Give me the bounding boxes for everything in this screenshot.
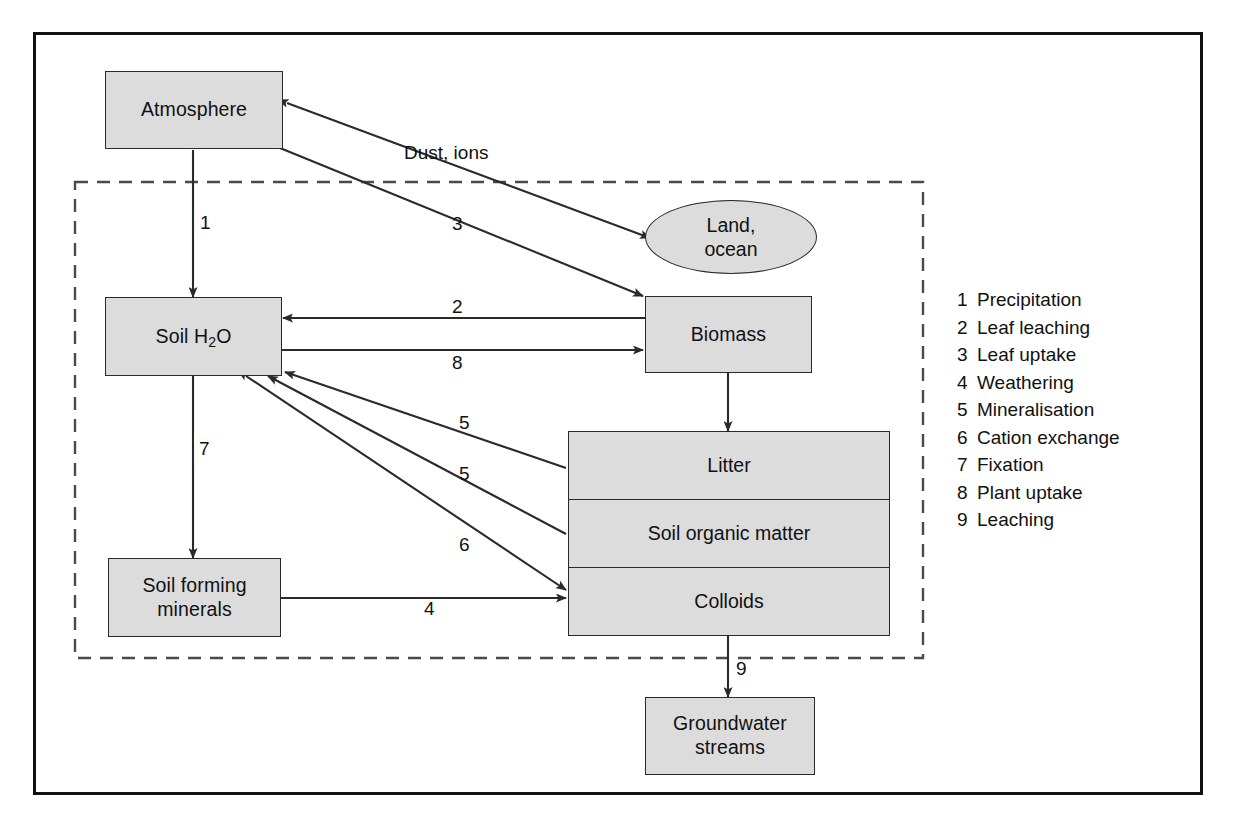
legend-label: Leaf leaching [977, 314, 1197, 342]
edge-label-9: 9 [736, 658, 747, 680]
node-soil-water[interactable]: Soil H2O [105, 297, 282, 376]
node-land-ocean[interactable]: Land, ocean [645, 200, 817, 274]
edge-label-1: 1 [200, 212, 211, 234]
legend-label: Cation exchange [977, 424, 1197, 452]
edge-label-4: 4 [424, 598, 435, 620]
node-biomass[interactable]: Biomass [645, 296, 812, 373]
legend-label: Leaching [977, 506, 1197, 534]
soil-water-subscript: 2 [208, 334, 216, 350]
node-soil-forming-minerals[interactable]: Soil forming minerals [108, 558, 281, 637]
legend-item: 2 Leaf leaching [957, 314, 1197, 342]
legend-number: 7 [957, 451, 977, 479]
legend-item: 6 Cation exchange [957, 424, 1197, 452]
legend-label: Leaf uptake [977, 341, 1197, 369]
legend-item: 5 Mineralisation [957, 396, 1197, 424]
soil-forming-line1: Soil forming [142, 574, 246, 596]
node-soil-organic-matter-label: Soil organic matter [648, 522, 811, 545]
node-biomass-label: Biomass [691, 323, 766, 347]
legend-item: 8 Plant uptake [957, 479, 1197, 507]
soil-water-prefix: Soil H [156, 325, 209, 347]
legend-label: Precipitation [977, 286, 1197, 314]
node-groundwater-streams[interactable]: Groundwater streams [645, 697, 815, 775]
legend-item: 3 Leaf uptake [957, 341, 1197, 369]
node-litter[interactable]: Litter [569, 432, 889, 500]
legend-number: 2 [957, 314, 977, 342]
node-colloids-label: Colloids [694, 590, 763, 613]
legend: 1 Precipitation 2 Leaf leaching 3 Leaf u… [957, 286, 1197, 534]
legend-number: 3 [957, 341, 977, 369]
node-atmosphere[interactable]: Atmosphere [105, 71, 283, 149]
legend-number: 6 [957, 424, 977, 452]
edge-label-6: 6 [459, 534, 470, 556]
edge-5-mineralisation-litter [285, 372, 566, 468]
edge-label-3: 3 [452, 213, 463, 235]
legend-number: 1 [957, 286, 977, 314]
node-litter-label: Litter [707, 454, 750, 477]
node-colloids[interactable]: Colloids [569, 568, 889, 635]
edge-label-5-som: 5 [459, 463, 470, 485]
node-atmosphere-label: Atmosphere [141, 98, 247, 122]
edge-label-2: 2 [452, 296, 463, 318]
legend-number: 9 [957, 506, 977, 534]
edge-label-7: 7 [199, 438, 210, 460]
node-groundwater-streams-label: Groundwater streams [673, 712, 787, 760]
node-soil-water-label: Soil H2O [156, 325, 232, 349]
soil-water-suffix: O [216, 325, 231, 347]
edge-label-dust-ions: Dust, ions [404, 142, 488, 164]
soil-forming-line2: minerals [157, 598, 232, 620]
groundwater-line1: Groundwater [673, 712, 787, 734]
node-land-ocean-label: Land, ocean [704, 213, 757, 261]
edge-6-cation-exchange [246, 376, 566, 590]
legend-item: 9 Leaching [957, 506, 1197, 534]
edge-label-8: 8 [452, 352, 463, 374]
edge-label-5-litter: 5 [459, 412, 470, 434]
legend-label: Plant uptake [977, 479, 1197, 507]
legend-number: 5 [957, 396, 977, 424]
node-soil-organic-matter[interactable]: Soil organic matter [569, 500, 889, 568]
legend-item: 4 Weathering [957, 369, 1197, 397]
legend-label: Weathering [977, 369, 1197, 397]
node-soil-stack: Litter Soil organic matter Colloids [568, 431, 890, 636]
land-ocean-line1: Land, [707, 214, 756, 236]
legend-number: 4 [957, 369, 977, 397]
edge-dust-ions [287, 103, 650, 238]
legend-label: Fixation [977, 451, 1197, 479]
figure-page: Atmosphere Land, ocean Soil H2O Biomass … [0, 0, 1234, 838]
legend-item: 7 Fixation [957, 451, 1197, 479]
land-ocean-line2: ocean [704, 238, 757, 260]
legend-item: 1 Precipitation [957, 286, 1197, 314]
groundwater-line2: streams [695, 736, 765, 758]
legend-label: Mineralisation [977, 396, 1197, 424]
edge-5-mineralisation-som [268, 376, 566, 534]
legend-number: 8 [957, 479, 977, 507]
node-soil-forming-minerals-label: Soil forming minerals [142, 574, 246, 622]
